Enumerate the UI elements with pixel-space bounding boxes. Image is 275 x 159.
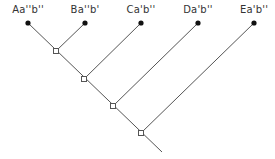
leaf-dot-a [25,20,30,25]
node-ab [54,49,59,54]
taxon-label-e: Ea'b'' [240,4,268,15]
branch-b [56,23,85,51]
leaf-dot-e [251,20,256,25]
taxon-label-c: Ca'b'' [127,4,156,15]
leaf-dot-b [82,20,87,25]
cladogram-tree [0,0,275,159]
taxon-label-d: Da'b'' [183,4,213,15]
branch-d [113,23,198,106]
node-abcd [111,104,116,109]
leaf-dot-d [195,20,200,25]
branch-c [84,23,141,79]
node-abc [82,77,87,82]
cladogram: Aa''b'' Ba''b' Ca'b'' Da'b'' Ea'b'' [0,0,275,159]
leaf-dot-c [138,20,143,25]
taxon-label-b: Ba''b' [71,4,100,15]
branch-e [141,23,254,133]
node-abcde [139,131,144,136]
taxon-label-a: Aa''b'' [12,4,44,15]
